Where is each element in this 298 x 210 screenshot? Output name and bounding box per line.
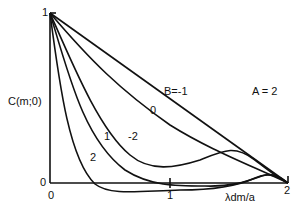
curve-label-b-minus-2: -2 [128,131,138,142]
y-tick-label-0: 0 [40,177,46,188]
x-tick-label-1: 1 [167,190,173,201]
curve-label-b-1: 1 [104,131,110,142]
x-tick-label-0: 0 [48,190,54,201]
curve-label-b-2: 2 [90,152,96,163]
chart: 1 0 0 1 2 C(m;0) λdm/a A = 2 B=-1 0 -2 1… [0,0,298,210]
x-axis-title: λdm/a [225,192,255,203]
y-tick-label-1: 1 [42,7,48,18]
param-a-label: A = 2 [252,86,277,97]
y-axis-title: C(m;0) [8,96,42,107]
curve-label-b-0: 0 [150,105,156,116]
curve-b-2 [50,13,288,192]
x-tick-label-2: 2 [284,185,290,196]
curve-label-b-minus-1: B=-1 [164,86,188,97]
